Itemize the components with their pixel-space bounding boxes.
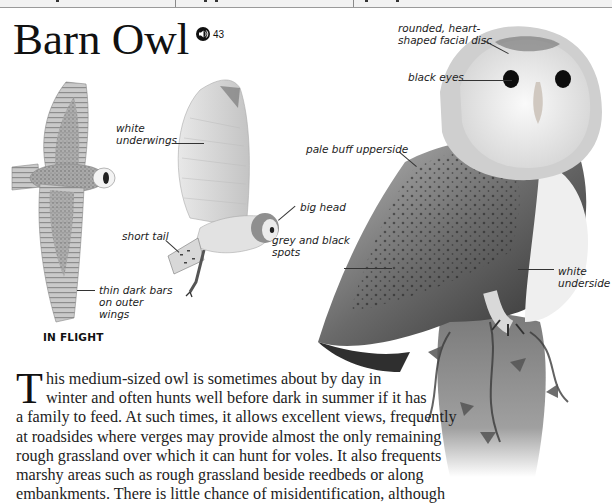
top-table-strip (0, 0, 612, 8)
column-divider (175, 0, 176, 7)
leader-line (462, 80, 512, 81)
annotation-short-tail: short tail (122, 230, 169, 242)
body-line: rough grassland over which it can hunt f… (16, 447, 368, 466)
annotation-white-underside: white underside (558, 265, 610, 289)
annotation-white-underwings: white underwings (116, 122, 177, 146)
leader-line (172, 143, 204, 144)
annotation-facial-disc: rounded, heart- shaped facial disc (398, 22, 492, 46)
page-title: Barn Owl (13, 14, 189, 64)
cropped-glyph (204, 0, 207, 2)
body-line: at roadsides where verges may provide al… (16, 428, 368, 447)
audio-track-number: 43 (213, 29, 224, 40)
cropped-glyph (365, 0, 368, 2)
body-paragraph: T his medium-sized owl is sometimes abou… (16, 370, 368, 504)
annotation-pale-buff-upperside: pale buff upperside (306, 143, 408, 155)
annotation-thin-dark-bars: thin dark bars on outer wings (99, 284, 172, 320)
speaker-icon[interactable] (196, 27, 210, 41)
annotation-grey-black-spots: grey and black spots (272, 234, 350, 258)
annotation-big-head: big head (300, 201, 346, 213)
cropped-glyph (56, 0, 59, 2)
column-divider (353, 0, 354, 7)
body-line: a family to feed. At such times, it allo… (16, 408, 368, 427)
cropped-glyph (215, 0, 218, 2)
annotation-black-eyes: black eyes (408, 71, 464, 83)
drop-cap: T (16, 372, 43, 406)
body-line: embankments. There is little chance of m… (16, 485, 368, 504)
leader-line (77, 290, 95, 291)
leader-line (518, 269, 554, 270)
owl-flight-sideview-illustration (160, 78, 285, 300)
body-line: marshy areas such as rough grassland bes… (16, 466, 368, 485)
body-line: his medium-sized owl is sometimes about … (16, 370, 368, 389)
body-line: winter and often hunts well before dark … (16, 389, 368, 408)
cropped-glyph (396, 0, 399, 2)
in-flight-caption: IN FLIGHT (43, 331, 104, 343)
audio-reference[interactable]: 43 (196, 27, 224, 41)
leader-line (344, 268, 392, 269)
